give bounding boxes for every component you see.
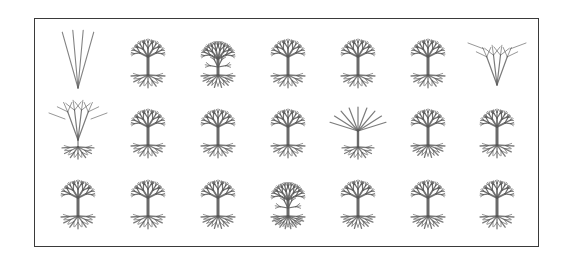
plant-figure-r1-c1 <box>43 25 113 95</box>
plant-figure-r3-c3 <box>183 166 253 236</box>
plant-structure-icon <box>43 25 113 95</box>
plant-structure-icon <box>183 25 253 95</box>
plant-structure-icon <box>462 25 532 95</box>
plant-structure-icon <box>462 95 532 165</box>
plant-figure-r3-c1 <box>43 166 113 236</box>
plant-figure-r1-c3 <box>183 25 253 95</box>
plant-structure-icon <box>43 166 113 236</box>
plant-structure-icon <box>113 25 183 95</box>
plant-figure-r2-c4 <box>253 95 323 165</box>
plant-figure-r3-c6 <box>393 166 463 236</box>
plant-figure-r1-c6 <box>393 25 463 95</box>
plant-figure-r2-c6 <box>393 95 463 165</box>
plant-figure-r1-c7 <box>462 25 532 95</box>
plant-figure-r1-c5 <box>323 25 393 95</box>
plant-figure-r2-c1 <box>43 95 113 165</box>
plant-structure-icon <box>323 25 393 95</box>
plant-figure-r3-c5 <box>323 166 393 236</box>
plant-structure-icon <box>462 166 532 236</box>
plant-structure-icon <box>253 25 323 95</box>
plant-structure-icon <box>113 166 183 236</box>
plant-figure-r2-c2 <box>113 95 183 165</box>
plant-figure-r3-c2 <box>113 166 183 236</box>
plant-structure-icon <box>253 166 323 236</box>
plant-figure-r1-c4 <box>253 25 323 95</box>
plant-structure-icon <box>393 25 463 95</box>
plant-structure-icon <box>323 166 393 236</box>
plant-structure-icon <box>43 95 113 165</box>
plant-structure-icon <box>183 166 253 236</box>
plant-figure-r2-c5 <box>323 95 393 165</box>
plant-figure-r2-c3 <box>183 95 253 165</box>
plant-structure-icon <box>113 95 183 165</box>
plant-structure-icon <box>323 95 393 165</box>
plant-structure-icon <box>393 95 463 165</box>
plant-figure-r1-c2 <box>113 25 183 95</box>
plant-figure-r3-c7 <box>462 166 532 236</box>
plant-figure-r3-c4 <box>253 166 323 236</box>
plant-structure-icon <box>393 166 463 236</box>
plant-structure-icon <box>253 95 323 165</box>
plant-figure-r2-c7 <box>462 95 532 165</box>
plant-structure-icon <box>183 95 253 165</box>
